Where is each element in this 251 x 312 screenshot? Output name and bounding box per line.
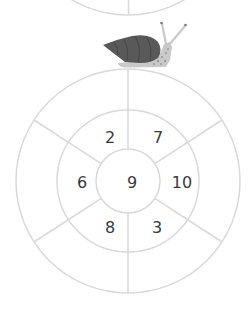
- spoke-lower-right: [155, 198, 222, 242]
- puzzle-canvas: 9 2 7 6 10 8 3: [0, 0, 251, 312]
- cell-upper-right-number: 7: [153, 128, 163, 147]
- cell-left-number: 6: [77, 173, 87, 192]
- spoke-lower-left: [34, 198, 101, 242]
- previous-wheel: [16, 0, 240, 15]
- snail-eye-left: [160, 22, 163, 25]
- number-wheel: 9 2 7 6 10 8 3: [16, 69, 240, 293]
- cell-upper-left-number: 2: [105, 128, 115, 147]
- cell-lower-right-number: 3: [152, 218, 162, 237]
- center-number: 9: [127, 173, 137, 192]
- snail-tentacle-right: [169, 26, 185, 45]
- snail-eye-right: [184, 24, 187, 27]
- spoke-upper-right: [155, 120, 222, 164]
- snail-shell: [103, 35, 161, 63]
- cell-right-number: 10: [172, 173, 192, 192]
- cell-lower-left-number: 8: [105, 218, 115, 237]
- snail-icon: [103, 22, 187, 68]
- spoke-upper-left: [34, 120, 101, 164]
- snail-tentacle-left: [162, 24, 166, 44]
